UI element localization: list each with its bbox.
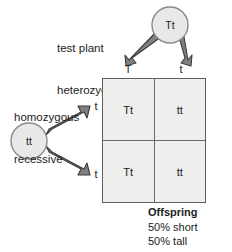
punnett-cell-r1c2: tt <box>155 79 206 140</box>
punnett-square-diagram: Tt tt test plant heterozygous tall homoz… <box>0 0 232 252</box>
offspring-line-1: 50% short <box>148 220 232 235</box>
row-label-1: t <box>89 100 103 112</box>
punnett-cell-r1c1: Tt <box>103 79 154 140</box>
punnett-cell-r2c1: Tt <box>103 141 154 202</box>
parent-top-genotype: Tt <box>165 19 174 31</box>
column-label-2: t <box>174 63 188 75</box>
parent-circle-top: Tt <box>152 7 188 43</box>
top-parent-annotation-line1: test plant <box>57 41 144 55</box>
column-label-1: T <box>121 63 135 75</box>
arrow-top-to-t <box>179 31 192 66</box>
left-parent-annotation-line1: homozygous <box>14 110 79 124</box>
left-parent-annotation: homozygous recessive <box>14 82 79 194</box>
punnett-cell-r2c2: tt <box>155 141 206 202</box>
offspring-line-2: 50% tall <box>148 234 232 249</box>
left-parent-annotation-line2: recessive <box>14 152 79 166</box>
offspring-summary: Offspring 50% short 50% tall <box>148 205 232 249</box>
row-label-2: t <box>89 168 103 180</box>
offspring-heading: Offspring <box>148 205 232 220</box>
punnett-grid: Tt tt Tt tt <box>102 78 206 203</box>
